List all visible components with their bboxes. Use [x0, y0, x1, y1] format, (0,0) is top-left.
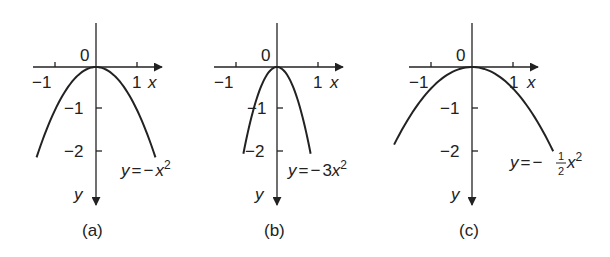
y-axis-label: y: [450, 185, 461, 204]
y-tick-label-neg2: −2: [64, 142, 83, 161]
fraction-numerator: 1: [558, 150, 564, 162]
panel-b: 0 −1 1 x −1 −2 y y=−3x2 (b): [214, 23, 347, 240]
x-tick-label-neg1: −1: [409, 73, 428, 92]
x-tick-label-pos1: 1: [509, 73, 518, 92]
origin-label: 0: [80, 46, 89, 65]
equation-label: y=−x2: [120, 158, 171, 180]
panel-c: 0 −1 1 x −1 −2 y y=− 1 2 x2 (c): [394, 23, 582, 240]
fraction-denominator: 2: [558, 165, 564, 177]
y-tick-label-neg1: −1: [247, 99, 266, 118]
x-tick-label-pos1: 1: [132, 73, 141, 92]
x-tick-label-pos1: 1: [313, 73, 322, 92]
y-tick-label-neg1: −1: [440, 99, 459, 118]
y-axis-label: y: [254, 185, 265, 204]
y-axis-label: y: [73, 185, 84, 204]
x-axis-label: x: [526, 73, 536, 92]
x-tick-label-neg1: −1: [214, 73, 233, 92]
x-axis-label: x: [147, 73, 157, 92]
panel-caption: (c): [459, 221, 479, 240]
svg-text:y=−: y=−: [509, 153, 542, 172]
x-tick-label-neg1: −1: [32, 73, 51, 92]
origin-label: 0: [456, 46, 465, 65]
svg-text:x2: x2: [566, 150, 583, 172]
panel-caption: (b): [264, 221, 285, 240]
equation-label: y=− 1 2 x2: [509, 150, 583, 177]
panel-a: 0 −1 1 x −1 −2 y y=−x2 (a): [32, 23, 171, 240]
origin-label: 0: [261, 46, 270, 65]
equation-label: y=−3x2: [287, 158, 347, 180]
y-tick-label-neg2: −2: [440, 142, 459, 161]
x-axis-label: x: [329, 73, 339, 92]
y-tick-label-neg1: −1: [64, 99, 83, 118]
y-tick-label-neg2: −2: [245, 142, 264, 161]
panel-caption: (a): [82, 221, 103, 240]
parabola-figure: 0 −1 1 x −1 −2 y y=−x2 (a) 0 −1 1 x −1 −…: [0, 0, 610, 257]
